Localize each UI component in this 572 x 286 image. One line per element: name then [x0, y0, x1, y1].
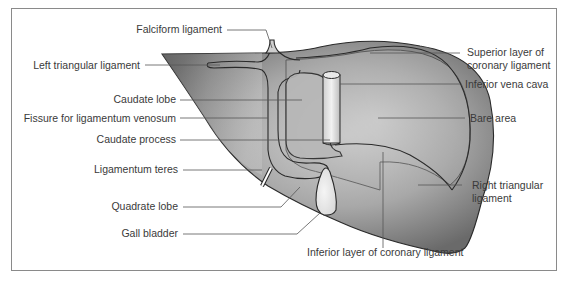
label-inferior-vena-cava: Inferior vena cava: [465, 78, 549, 90]
left-lobe-shading: [162, 53, 262, 175]
label-gall-bladder: Gall bladder: [121, 227, 178, 239]
liver-diagram: Falciform ligament Left triangular ligam…: [0, 0, 572, 286]
label-quadrate-lobe: Quadrate lobe: [111, 200, 178, 212]
label-superior-coronary-line1: Superior layer of: [467, 46, 544, 58]
label-superior-coronary-line2: coronary ligament: [467, 59, 551, 71]
label-caudate-lobe: Caudate lobe: [114, 93, 177, 105]
label-ligamentum-teres: Ligamentum teres: [94, 163, 178, 175]
falciform-base: [266, 40, 280, 53]
label-right-triangular-line1: Right triangular: [472, 179, 544, 191]
label-left-triangular-ligament: Left triangular ligament: [33, 59, 140, 71]
label-falciform-ligament: Falciform ligament: [136, 23, 222, 35]
label-bare-area: Bare area: [470, 112, 516, 124]
label-inferior-coronary: Inferior layer of coronary ligament: [307, 246, 463, 258]
label-caudate-process: Caudate process: [97, 133, 176, 145]
label-fissure-ligamentum-venosum: Fissure for ligamentum venosum: [24, 112, 177, 124]
inferior-vena-cava-shape: [323, 72, 340, 146]
leader-falciform: [227, 30, 272, 48]
label-right-triangular-line2: ligament: [472, 192, 512, 204]
leader-gall-bladder: [183, 213, 320, 234]
